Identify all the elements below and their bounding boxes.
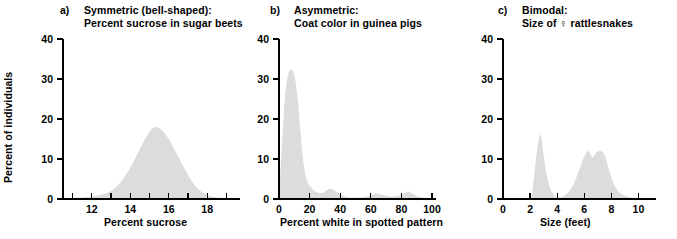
y-tick-label: 30 xyxy=(481,73,493,85)
y-tick-label: 40 xyxy=(481,33,493,45)
y-tick-label: 20 xyxy=(41,113,53,125)
y-tick-label: 0 xyxy=(263,193,269,205)
y-tick-label: 10 xyxy=(41,153,53,165)
x-tick-label: 2 xyxy=(527,203,533,215)
x-tick-label: 12 xyxy=(86,203,98,215)
x-tick-label: 100 xyxy=(423,203,441,215)
distribution-area xyxy=(279,70,432,199)
y-tick-label: 0 xyxy=(47,193,53,205)
x-tick-label: 8 xyxy=(608,203,614,215)
x-tick-label: 60 xyxy=(365,203,377,215)
y-tick-label: 10 xyxy=(257,153,269,165)
y-tick-label: 40 xyxy=(257,33,269,45)
y-tick-label: 10 xyxy=(481,153,493,165)
x-tick-label: 0 xyxy=(500,203,506,215)
figure-three-distribution-shapes: a) Symmetric (bell-shaped): Percent sucr… xyxy=(0,0,677,239)
panel-c-bimodal: c) Bimodal: Size of ♀ rattlesnakes Size … xyxy=(468,0,677,239)
y-tick-label: 20 xyxy=(481,113,493,125)
panel-b-asymmetric: b) Asymmetric: Coat color in guinea pigs… xyxy=(246,0,468,239)
y-tick-label: 40 xyxy=(41,33,53,45)
y-tick-label: 0 xyxy=(487,193,493,205)
x-tick-label: 80 xyxy=(396,203,408,215)
x-tick-label: 6 xyxy=(581,203,587,215)
x-tick-label: 18 xyxy=(201,203,213,215)
panel-b-plot: 010203040020406080100 xyxy=(246,0,468,239)
y-tick-label: 30 xyxy=(257,73,269,85)
x-tick-label: 4 xyxy=(554,203,560,215)
x-tick-label: 20 xyxy=(304,203,316,215)
distribution-area xyxy=(503,135,652,200)
x-tick-label: 10 xyxy=(633,203,645,215)
x-tick-label: 0 xyxy=(276,203,282,215)
y-tick-label: 30 xyxy=(41,73,53,85)
panel-a-plot: 01020304012141618 xyxy=(0,0,246,239)
y-tick-label: 20 xyxy=(257,113,269,125)
distribution-area xyxy=(63,127,236,199)
panel-c-plot: 0102030400246810 xyxy=(468,0,677,239)
x-tick-label: 16 xyxy=(163,203,175,215)
x-tick-label: 14 xyxy=(124,203,136,215)
x-tick-label: 40 xyxy=(334,203,346,215)
panel-a-symmetric: a) Symmetric (bell-shaped): Percent sucr… xyxy=(0,0,246,239)
